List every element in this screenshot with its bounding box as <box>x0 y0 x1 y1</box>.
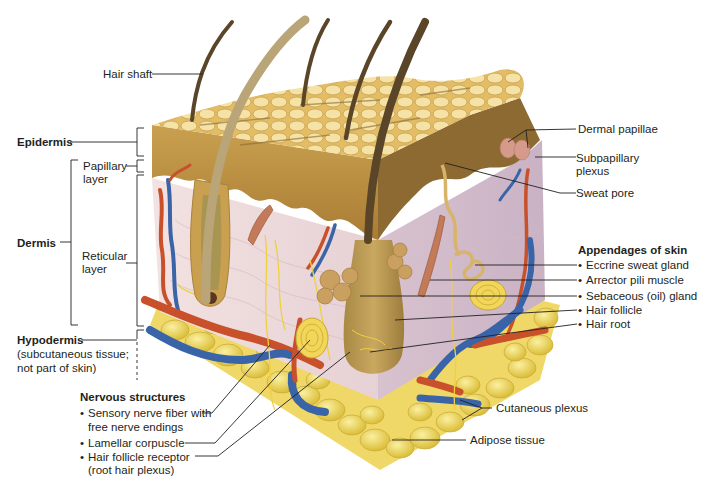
label-subpapillary-2: plexus <box>576 164 609 178</box>
label-hypodermis: Hypodermis <box>17 333 83 347</box>
appendage-eccrine-sweat-gland: Eccrine sweat gland <box>578 258 689 272</box>
nervous-item-hair-follicle-receptor: Hair follicle receptor <box>80 450 190 464</box>
label-subpapillary-1: Subpapillary <box>576 151 639 165</box>
appendage-arrector-pili-muscle: Arrector pili muscle <box>578 273 684 287</box>
label-hair-shaft: Hair shaft <box>103 67 152 81</box>
label-adipose-tissue: Adipose tissue <box>470 433 545 447</box>
appendage-hair-root: Hair root <box>578 317 630 331</box>
label-hypodermis-note-1: (subcutaneous tissue; <box>17 347 129 361</box>
appendages-heading: Appendages of skin <box>578 243 687 257</box>
appendage-hair-follicle: Hair follicle <box>578 303 642 317</box>
label-reticular-1: Reticular <box>82 249 127 263</box>
label-dermal-papillae: Dermal papillae <box>578 122 658 136</box>
nervous-item-sensory-2: free nerve endings <box>78 420 183 434</box>
nervous-heading: Nervous structures <box>80 390 185 404</box>
label-sweat-pore: Sweat pore <box>576 186 634 200</box>
nervous-item-hair-follicle-receptor-2: (root hair plexus) <box>78 463 174 477</box>
label-papillary-2: layer <box>83 172 108 186</box>
label-epidermis: Epidermis <box>17 135 73 149</box>
label-reticular-2: layer <box>82 262 107 276</box>
label-papillary-1: Papillary <box>83 159 127 173</box>
label-cutaneous-plexus: Cutaneous plexus <box>496 401 588 415</box>
nervous-item-lamellar: Lamellar corpuscle <box>80 436 185 450</box>
label-dermis: Dermis <box>17 236 56 250</box>
nervous-item-sensory: Sensory nerve fiber with <box>80 406 211 420</box>
appendage-sebaceous-gland: Sebaceous (oil) gland <box>578 289 697 303</box>
label-hypodermis-note-2: not part of skin) <box>17 361 96 375</box>
